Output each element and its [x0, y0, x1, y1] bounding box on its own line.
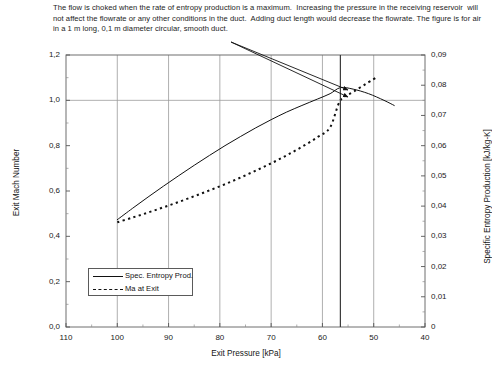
chart-series-line	[117, 87, 394, 219]
legend-line-sample-solid	[93, 276, 123, 277]
y2-axis-tick-label: 0,07	[431, 110, 457, 119]
y2-axis-tick-label: 0,03	[431, 231, 457, 240]
y-axis-tick-label: 1,2	[34, 50, 60, 59]
legend-item: Spec. Entropy Prod.	[89, 270, 194, 283]
x-axis-tick-label: 60	[307, 333, 337, 342]
y-axis-tick-label: 0,0	[34, 322, 60, 331]
chart-series-line	[117, 78, 376, 223]
x-axis-tick-label: 40	[410, 333, 440, 342]
choke-leader-upper-arrow	[231, 42, 348, 90]
legend-item: Ma at Exit	[89, 283, 194, 296]
y-axis-tick-label: 0,6	[34, 186, 60, 195]
legend-item-label: Ma at Exit	[125, 284, 159, 293]
y-axis-tick-label: 0,4	[34, 231, 60, 240]
x-axis-title: Exit Pressure [kPa]	[146, 349, 346, 358]
x-axis-tick-label: 80	[205, 333, 235, 342]
chart-annotation-layer	[231, 42, 348, 327]
x-axis-tick-label: 50	[359, 333, 389, 342]
legend-line-sample-dashed	[93, 289, 123, 290]
y-axis-tick-label: 0,8	[34, 141, 60, 150]
choke-leader-lower-arrow	[231, 42, 348, 97]
y2-axis-tick-label: 0,05	[431, 171, 457, 180]
y-axis-tick-label: 0,2	[34, 277, 60, 286]
y2-axis-tick-label: 0,02	[431, 262, 457, 271]
y2-axis-tick-label: 0,08	[431, 80, 457, 89]
y2-axis-tick-label: 0,04	[431, 201, 457, 210]
y2-axis-tick-label: 0	[431, 322, 457, 331]
y2-axis-tick-label: 0,09	[431, 50, 457, 59]
y2-axis-title: Specific Entropy Production [kJ/kg-K]	[483, 102, 492, 292]
chart-legend: Spec. Entropy Prod. Ma at Exit	[88, 268, 193, 296]
x-axis-tick-label: 90	[154, 333, 184, 342]
x-axis-tick-label: 100	[102, 333, 132, 342]
y-axis-tick-label: 1,0	[34, 95, 60, 104]
y-axis-title: Exit Mach Number	[12, 123, 21, 243]
chart-series-layer	[117, 78, 394, 223]
y2-axis-tick-label: 0,06	[431, 141, 457, 150]
y2-axis-tick-label: 0,01	[431, 292, 457, 301]
legend-item-label: Spec. Entropy Prod.	[125, 271, 193, 280]
x-axis-tick-label: 70	[256, 333, 286, 342]
x-axis-tick-label: 110	[51, 333, 81, 342]
